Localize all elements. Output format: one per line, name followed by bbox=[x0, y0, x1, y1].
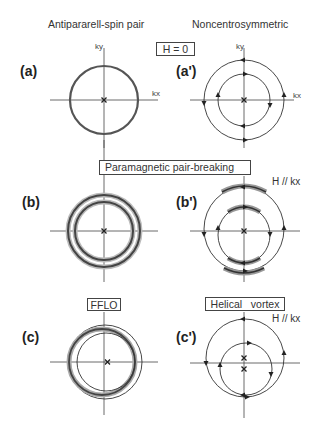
panel-a-graphic bbox=[50, 48, 158, 148]
panel-label-c: (c) bbox=[22, 329, 39, 345]
panel-a-prime-graphic bbox=[190, 48, 294, 148]
panel-label-b-prime: (b') bbox=[176, 194, 197, 210]
diagram-canvas bbox=[0, 0, 314, 441]
panel-label-a-prime: (a') bbox=[176, 63, 196, 79]
paramagnetic-pair-breaking-box: Paramagnetic pair-breaking bbox=[99, 160, 251, 175]
axis-label-ky-a-prime: ky bbox=[236, 42, 244, 51]
panel-c-prime-graphic bbox=[190, 312, 300, 418]
field-label-c-prime: H // kx bbox=[272, 313, 300, 324]
panel-b-prime-graphic bbox=[190, 176, 300, 282]
h-zero-box: H = 0 bbox=[156, 42, 195, 56]
panel-label-c-prime: (c') bbox=[176, 329, 196, 345]
axis-label-ky-a: ky bbox=[95, 42, 103, 51]
axis-label-kx-a: kx bbox=[152, 89, 160, 98]
panel-c-graphic bbox=[50, 312, 158, 415]
field-label-b-prime: H // kx bbox=[272, 176, 300, 187]
axis-label-kx-a-prime: kx bbox=[293, 91, 301, 100]
panel-label-a: (a) bbox=[20, 63, 37, 79]
helical-vortex-box: Helical vortex bbox=[205, 297, 285, 311]
helicity-arrow-icons bbox=[204, 317, 287, 400]
fflo-box: FFLO bbox=[87, 298, 121, 311]
panel-label-b: (b) bbox=[22, 194, 40, 210]
